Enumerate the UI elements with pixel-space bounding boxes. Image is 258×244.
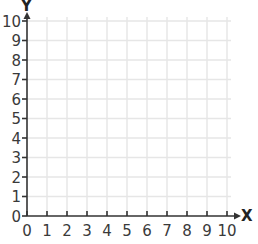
x-tick-label: 6 <box>142 222 152 240</box>
x-tick-label: 4 <box>102 222 112 240</box>
y-tick-label: 10 <box>2 13 21 31</box>
y-axis-ticks: 012345678910 <box>2 13 27 226</box>
y-tick-label: 2 <box>11 169 21 187</box>
y-tick-label: 3 <box>11 149 21 167</box>
x-axis-title: X <box>241 207 253 225</box>
x-tick-label: 0 <box>22 222 32 240</box>
grid-lines <box>27 17 231 216</box>
x-tick-label: 2 <box>62 222 72 240</box>
y-tick-label: 7 <box>11 71 21 89</box>
x-tick-label: 9 <box>202 222 212 240</box>
y-tick-label: 0 <box>11 208 21 226</box>
x-tick-label: 1 <box>42 222 52 240</box>
y-tick-label: 8 <box>11 52 21 70</box>
x-tick-label: 5 <box>122 222 132 240</box>
x-axis-arrow-icon <box>234 213 241 220</box>
coordinate-grid-chart: 012345678910 012345678910 X Y <box>0 0 258 244</box>
x-tick-label: 7 <box>162 222 172 240</box>
axes <box>24 12 242 220</box>
y-tick-label: 6 <box>11 91 21 109</box>
y-tick-label: 5 <box>11 110 21 128</box>
y-tick-label: 1 <box>11 188 21 206</box>
y-tick-label: 4 <box>11 130 21 148</box>
x-tick-label: 8 <box>182 222 192 240</box>
y-axis-title: Y <box>20 0 33 15</box>
y-tick-label: 9 <box>11 32 21 50</box>
x-tick-label: 3 <box>82 222 92 240</box>
x-tick-label: 10 <box>217 222 236 240</box>
